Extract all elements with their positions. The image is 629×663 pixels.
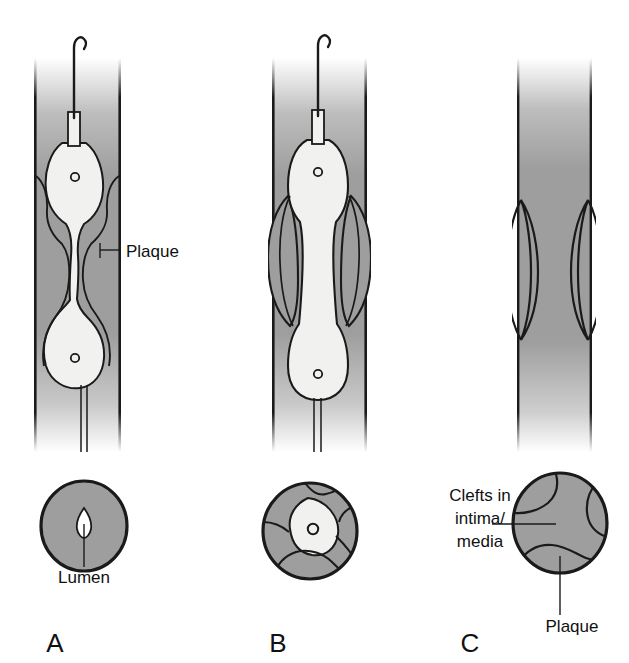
panel-label-c: C — [461, 628, 480, 658]
clefts-label-c-line1: Clefts in — [449, 486, 510, 505]
panel-label-a: A — [46, 628, 64, 658]
panel-b-cross-section — [263, 480, 357, 579]
clefts-label-c-line3: media — [457, 532, 504, 551]
angioplasty-figure: Plaque Lumen A — [0, 0, 629, 663]
panel-a-cross-section: Lumen — [41, 481, 127, 587]
artery-wall-left-c — [517, 58, 519, 452]
panel-c-longitudinal — [507, 58, 602, 452]
panel-c-cross-section: Clefts in intima/ media Plaque — [449, 473, 607, 636]
clefts-label-c-line2: intima/ — [455, 509, 505, 528]
plaque-label-c: Plaque — [546, 617, 599, 636]
artery-wall-left-a — [34, 58, 37, 452]
figure-canvas: Plaque Lumen A — [0, 0, 629, 663]
balloon-marker-cross-b — [308, 524, 318, 534]
plaque-label-a: Plaque — [126, 242, 179, 261]
artery-wall-right-c — [590, 58, 592, 452]
artery-wall-right-a — [118, 58, 121, 452]
panel-b-longitudinal — [268, 35, 371, 452]
artery-wall-fill-c — [517, 58, 592, 452]
panel-a-longitudinal — [34, 37, 121, 452]
panel-label-b: B — [269, 628, 286, 658]
lumen-label-a: Lumen — [58, 568, 110, 587]
